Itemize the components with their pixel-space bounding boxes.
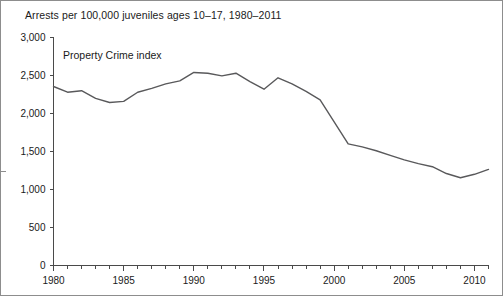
x-axis-tick-label: 2010	[463, 275, 486, 286]
y-axis-tick-label: 3,000	[20, 32, 45, 43]
x-axis-tick-label: 1990	[183, 275, 206, 286]
y-axis-tick-label: 2,000	[20, 108, 45, 119]
data-series-line	[54, 72, 489, 177]
y-axis-tick-label: 1,500	[20, 146, 45, 157]
x-axis-tick-label: 2000	[323, 275, 346, 286]
chart-figure: Arrests per 100,000 juveniles ages 10–17…	[0, 0, 503, 296]
y-axis-tick-label: 1,000	[20, 184, 45, 195]
y-axis-tick-label: 2,500	[20, 70, 45, 81]
x-axis-tick-label: 1980	[42, 275, 65, 286]
x-axis-tick-label: 1995	[253, 275, 276, 286]
y-axis-tick-label: 500	[29, 222, 46, 233]
x-axis-tick-label: 1985	[113, 275, 136, 286]
x-axis-tick-label: 2005	[393, 275, 416, 286]
line-chart-canvas: 05001,0001,5002,0002,5003,00019801985199…	[1, 1, 503, 296]
y-axis-tick-label: 0	[40, 260, 46, 271]
